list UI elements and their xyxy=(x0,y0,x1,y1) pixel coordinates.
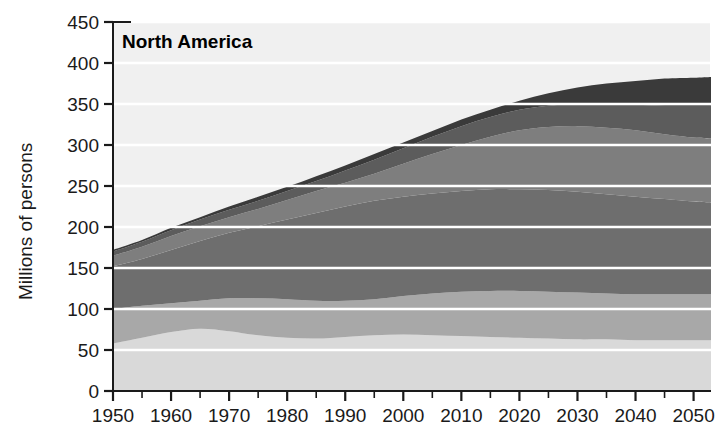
y-tick-label-300: 300 xyxy=(67,135,99,156)
y-tick-label-250: 250 xyxy=(67,176,99,197)
y-tick-label-450: 450 xyxy=(67,12,99,33)
y-tick-label-200: 200 xyxy=(67,217,99,238)
x-tick-label-2050: 2050 xyxy=(672,405,714,426)
y-axis-title: Millions of persons xyxy=(15,143,36,300)
x-tick-label-1990: 1990 xyxy=(324,405,366,426)
y-tick-label-350: 350 xyxy=(67,94,99,115)
chart-figure: 050100150200250300350400450 195019601970… xyxy=(0,0,728,444)
y-axis-ticks: 050100150200250300350400450 xyxy=(67,12,113,402)
x-tick-label-1960: 1960 xyxy=(150,405,192,426)
x-tick-label-1980: 1980 xyxy=(266,405,308,426)
x-tick-label-1950: 1950 xyxy=(92,405,134,426)
x-tick-label-1970: 1970 xyxy=(208,405,250,426)
x-tick-label-2030: 2030 xyxy=(556,405,598,426)
x-axis-ticks: 1950196019701980199020002010202020302040… xyxy=(92,391,715,426)
area-chart: 050100150200250300350400450 195019601970… xyxy=(0,0,728,444)
y-tick-label-50: 50 xyxy=(78,340,99,361)
y-tick-label-100: 100 xyxy=(67,299,99,320)
x-tick-label-2040: 2040 xyxy=(614,405,656,426)
y-tick-label-150: 150 xyxy=(67,258,99,279)
x-tick-label-2000: 2000 xyxy=(382,405,424,426)
x-tick-label-2020: 2020 xyxy=(498,405,540,426)
y-tick-label-400: 400 xyxy=(67,53,99,74)
chart-title: North America xyxy=(122,31,253,52)
y-tick-label-0: 0 xyxy=(88,381,99,402)
x-tick-label-2010: 2010 xyxy=(440,405,482,426)
